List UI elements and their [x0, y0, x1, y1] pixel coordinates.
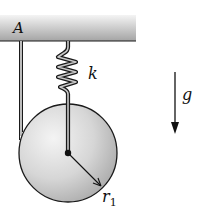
gravity-arrow	[171, 72, 179, 134]
physics-diagram: A k r1 g	[0, 0, 204, 211]
label-r1: r1	[102, 187, 117, 209]
label-k: k	[88, 64, 98, 83]
label-a: A	[11, 19, 24, 37]
string	[20, 41, 23, 140]
label-g: g	[182, 85, 192, 104]
